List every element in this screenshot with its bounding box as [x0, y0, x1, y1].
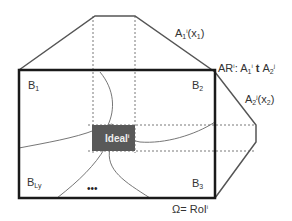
- boundary-curve-bottom-right: [109, 148, 150, 198]
- attainable-region-polygon: [19, 16, 256, 198]
- label-b2: B2: [192, 80, 203, 92]
- ellipsis: •••: [87, 184, 98, 194]
- label-ar: ARi: A1i t A2j: [218, 63, 275, 75]
- diagram-canvas: [0, 0, 292, 221]
- label-bly: BLy: [27, 177, 41, 189]
- label-omega: Ω= RoIi: [172, 204, 208, 215]
- label-b3: B3: [192, 178, 203, 190]
- label-ideal: Ideali: [105, 133, 129, 144]
- label-a1: A1i(x1): [175, 28, 204, 40]
- label-a2: A2j(x2): [245, 94, 274, 106]
- label-b1: B1: [28, 80, 39, 92]
